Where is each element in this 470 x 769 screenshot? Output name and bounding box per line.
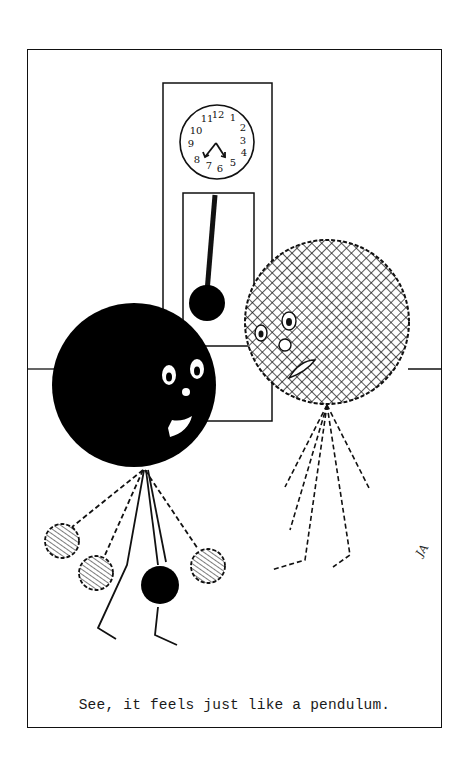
svg-text:9: 9 [188,138,194,149]
svg-text:8: 8 [194,154,200,165]
svg-text:2: 2 [240,122,246,133]
swing-ball-3 [191,549,225,583]
pendulum-ball [141,566,179,604]
svg-text:6: 6 [217,163,223,174]
crosshatched-legs [271,405,370,570]
cartoon-illustration: 12 1 2 3 4 5 6 7 8 9 10 11 [0,0,470,769]
swing-ball-2 [79,556,113,590]
caption: See, it feels just like a pendulum. [27,697,442,713]
black-arms-dashed [72,470,198,555]
svg-text:5: 5 [230,157,236,168]
clock-face: 12 1 2 3 4 5 6 7 8 9 10 11 [180,105,254,179]
swing-ball-1 [45,524,79,558]
black-character [45,303,225,645]
svg-text:4: 4 [241,147,247,158]
numeral-12: 12 [212,109,225,120]
svg-text:7: 7 [206,160,212,171]
svg-text:1: 1 [230,112,236,123]
svg-text:11: 11 [201,113,214,124]
svg-text:10: 10 [190,125,203,136]
svg-text:3: 3 [240,135,246,146]
